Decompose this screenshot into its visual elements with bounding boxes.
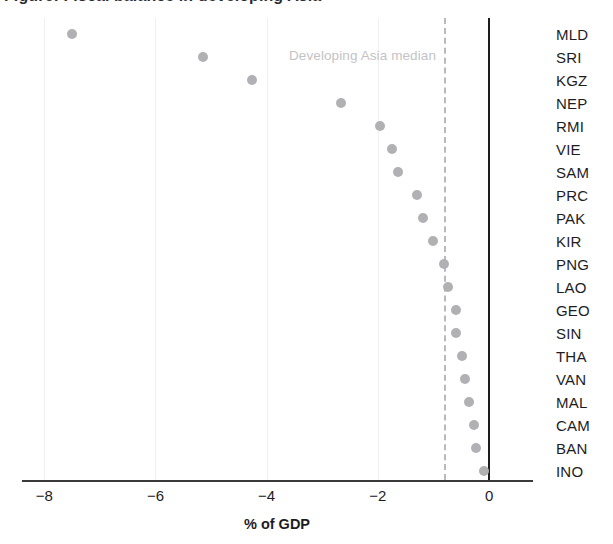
category-label-cam: CAM xyxy=(556,417,590,434)
category-label-prc: PRC xyxy=(556,187,588,204)
category-label-mal: MAL xyxy=(556,394,587,411)
data-point-nep[interactable] xyxy=(336,98,346,108)
category-label-rmi: RMI xyxy=(556,118,584,135)
data-point-mal[interactable] xyxy=(464,397,474,407)
category-label-mld: MLD xyxy=(556,26,588,43)
data-point-ban[interactable] xyxy=(471,443,481,453)
gridline-x-3 xyxy=(378,18,379,480)
developing-asia-median xyxy=(444,18,446,480)
category-label-kir: KIR xyxy=(556,233,582,250)
x-tick-label-2: −4 xyxy=(258,487,275,504)
gridline-x-2 xyxy=(267,18,268,480)
data-point-cam[interactable] xyxy=(469,420,479,430)
data-point-rmi[interactable] xyxy=(375,121,385,131)
data-point-sri[interactable] xyxy=(198,52,208,62)
category-label-van: VAN xyxy=(556,371,586,388)
data-point-kir[interactable] xyxy=(428,236,438,246)
category-label-ino: INO xyxy=(556,463,583,480)
data-point-sin[interactable] xyxy=(451,328,461,338)
median-annotation-label: Developing Asia median xyxy=(289,48,436,63)
plot-area: Developing Asia median xyxy=(22,18,533,480)
gridline-x-0 xyxy=(44,18,45,480)
data-point-png[interactable] xyxy=(439,259,449,269)
category-label-png: PNG xyxy=(556,256,589,273)
category-label-ban: BAN xyxy=(556,440,587,457)
x-axis-title: % of GDP xyxy=(244,516,310,532)
category-labels: MLDSRIKGZNEPRMIVIESAMPRCPAKKIRPNGLAOGEOS… xyxy=(556,0,613,544)
category-label-nep: NEP xyxy=(556,95,587,112)
x-tick-label-0: −8 xyxy=(36,487,53,504)
category-label-sin: SIN xyxy=(556,325,582,342)
data-point-geo[interactable] xyxy=(451,305,461,315)
data-point-prc[interactable] xyxy=(412,190,422,200)
x-axis-line xyxy=(22,480,533,482)
zero-line xyxy=(488,18,490,480)
data-point-sam[interactable] xyxy=(393,167,403,177)
data-point-tha[interactable] xyxy=(457,351,467,361)
category-label-lao: LAO xyxy=(556,279,587,296)
x-tick-label-3: −2 xyxy=(369,487,386,504)
x-tick-label-4: 0 xyxy=(485,487,493,504)
category-label-kgz: KGZ xyxy=(556,72,587,89)
category-label-pak: PAK xyxy=(556,210,586,227)
x-tick-label-1: −6 xyxy=(147,487,164,504)
category-label-sri: SRI xyxy=(556,49,582,66)
gridline-x-1 xyxy=(155,18,156,480)
data-point-lao[interactable] xyxy=(443,282,453,292)
category-label-tha: THA xyxy=(556,348,587,365)
data-point-van[interactable] xyxy=(460,374,470,384)
data-point-kgz[interactable] xyxy=(247,75,257,85)
data-point-ino[interactable] xyxy=(479,466,489,476)
data-point-vie[interactable] xyxy=(387,144,397,154)
data-point-mld[interactable] xyxy=(67,29,77,39)
dot-plot-chart: Developing Asia median −8−6−4−20 % of GD… xyxy=(0,0,613,544)
category-label-geo: GEO xyxy=(556,302,590,319)
category-label-sam: SAM xyxy=(556,164,589,181)
data-point-pak[interactable] xyxy=(418,213,428,223)
category-label-vie: VIE xyxy=(556,141,581,158)
